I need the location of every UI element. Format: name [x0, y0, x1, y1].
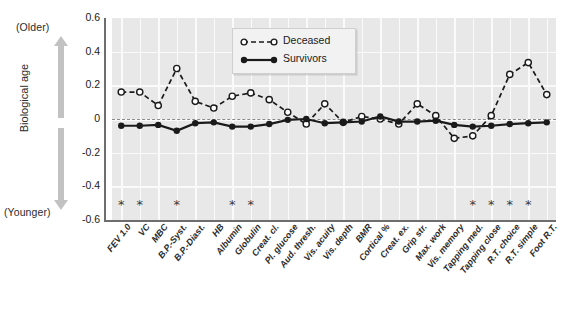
data-point-deceased [322, 101, 328, 107]
data-point-survivors [322, 120, 328, 126]
data-point-survivors [544, 119, 550, 125]
data-point-survivors [414, 118, 420, 124]
x-tick-label: HB [210, 222, 226, 238]
younger-label: (Younger) [4, 206, 51, 218]
data-point-survivors [451, 122, 457, 128]
data-point-deceased [229, 93, 235, 99]
data-point-deceased [192, 98, 198, 104]
data-point-deceased [488, 113, 494, 119]
data-point-deceased [174, 65, 180, 71]
data-point-survivors [507, 121, 513, 127]
y-tick-label: 0 [94, 112, 100, 124]
data-point-survivors [229, 123, 235, 129]
data-point-deceased [155, 102, 161, 108]
data-point-survivors [285, 117, 291, 123]
y-tick-label: 0.4 [85, 45, 100, 57]
data-point-survivors [248, 123, 254, 129]
data-point-deceased [470, 133, 476, 139]
legend-item-survivors: Survivors [239, 51, 279, 69]
y-tick-label: -0.2 [82, 146, 100, 158]
data-point-deceased [137, 89, 143, 95]
y-tick-label: 0.6 [85, 11, 100, 23]
legend-marker-deceased-icon [239, 33, 279, 51]
data-point-deceased [266, 97, 272, 103]
legend: Deceased Survivors [232, 28, 356, 74]
x-axis-tick-labels: FEV 1.0VCMBCB.P.-Syst.B.P.-Diast.HBAlbum… [104, 222, 564, 317]
data-point-deceased [507, 71, 513, 77]
data-point-survivors [211, 119, 217, 125]
y-tick-label: -0.4 [82, 179, 100, 191]
data-point-survivors [359, 118, 365, 124]
x-tick-label: FEV 1.0 [105, 222, 133, 254]
data-point-deceased [118, 89, 124, 95]
data-point-deceased [414, 101, 420, 107]
y-axis-title: Biological age [18, 50, 30, 146]
y-axis-tick-labels: 0.60.40.20-0.2-0.4-0.6 [60, 0, 100, 240]
data-point-survivors [525, 120, 531, 126]
older-label: (Older) [16, 21, 49, 33]
data-point-deceased [285, 109, 291, 115]
data-point-survivors [488, 123, 494, 129]
legend-label-survivors: Survivors [283, 52, 327, 64]
data-point-deceased [211, 105, 217, 111]
data-point-deceased [451, 135, 457, 141]
legend-marker-survivors-icon [239, 51, 279, 69]
data-point-survivors [174, 128, 180, 134]
data-point-survivors [303, 116, 309, 122]
data-point-survivors [137, 123, 143, 129]
data-point-deceased [544, 91, 550, 97]
legend-item-deceased: Deceased [239, 33, 279, 51]
data-point-survivors [192, 120, 198, 126]
data-point-survivors [266, 121, 272, 127]
data-point-survivors [155, 122, 161, 128]
x-tick-label: VC [136, 222, 152, 238]
y-tick-label: 0.2 [85, 78, 100, 90]
data-point-survivors [470, 123, 476, 129]
data-point-survivors [340, 119, 346, 125]
data-point-deceased [248, 90, 254, 96]
biological-age-chart: (Older) Biological age (Younger) 0.60.40… [0, 0, 564, 317]
data-point-survivors [433, 117, 439, 123]
data-point-survivors [396, 118, 402, 124]
y-tick-label: -0.6 [82, 213, 100, 225]
data-point-survivors [118, 123, 124, 129]
legend-label-deceased: Deceased [283, 34, 330, 46]
data-point-deceased [525, 60, 531, 66]
data-point-survivors [377, 113, 383, 119]
